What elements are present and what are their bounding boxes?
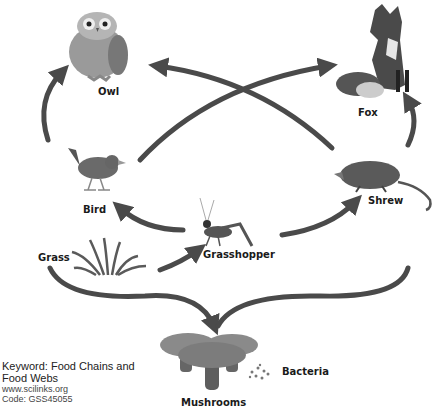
arrow-shrew-to-owl: [158, 66, 332, 148]
arrow-shrew-to-fox: [408, 100, 414, 145]
arrow-bird-to-owl: [44, 72, 62, 140]
arrow-grasshopper-to-shrew: [282, 202, 355, 235]
arrow-grasshopper-to-bird: [120, 208, 183, 230]
bird-illustration: [68, 148, 126, 190]
label-owl: Owl: [98, 86, 119, 97]
bacteria-illustration: [249, 364, 270, 380]
label-bacteria: Bacteria: [282, 366, 329, 377]
label-grass: Grass: [38, 252, 70, 263]
arrow-shrew-to-mushrooms: [218, 268, 408, 326]
food-web-arrows: [44, 66, 414, 326]
arrow-grass-to-grasshopper: [160, 250, 198, 270]
label-fox: Fox: [358, 107, 378, 118]
grasshopper-illustration: [200, 198, 252, 246]
label-shrew: Shrew: [368, 195, 403, 206]
label-bird: Bird: [83, 204, 106, 215]
owl-illustration: [69, 12, 128, 80]
fox-illustration: [336, 4, 409, 98]
website-link[interactable]: www.scilinks.org: [2, 384, 135, 394]
keyword-line-1: Keyword: Food Chains and: [2, 360, 135, 372]
keyword-line-2: Food Webs: [2, 372, 135, 384]
mushrooms-illustration: [160, 333, 258, 390]
scilinks-keyword-box: Keyword: Food Chains and Food Webs www.s…: [2, 360, 135, 404]
food-web-diagram: [0, 0, 438, 417]
label-grasshopper: Grasshopper: [203, 249, 275, 260]
arrow-bird-to-fox: [140, 66, 328, 160]
arrow-grass-to-mushrooms: [50, 268, 214, 326]
grass-illustration: [72, 238, 146, 275]
scilinks-code: Code: GSS45055: [2, 394, 135, 404]
label-mushrooms: Mushrooms: [181, 397, 246, 408]
